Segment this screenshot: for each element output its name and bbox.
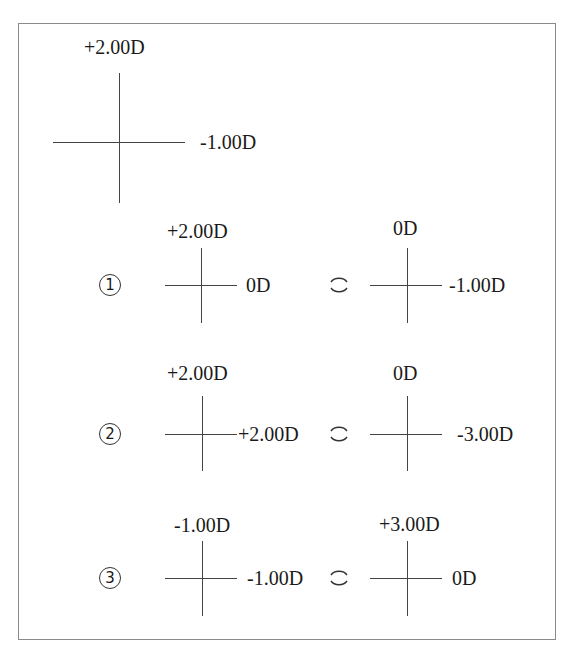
option-1-left-horizontal-meridian [165,285,237,286]
option-3-left-vertical-power: -1.00D [174,515,230,535]
main-horizontal-power-label: -1.00D [200,132,256,152]
main-vertical-power-label: +2.00D [84,37,145,57]
main-vertical-meridian [119,73,120,203]
option-2-right-vertical-power: 0D [393,363,417,383]
option-marker-3: 3 [99,567,121,589]
combine-symbol-icon [329,568,349,588]
option-3-right-horizontal-meridian [370,578,442,579]
main-horizontal-meridian [53,142,185,143]
option-1-right-horizontal-power: -1.00D [449,275,505,295]
option-1-left-horizontal-power: 0D [246,275,270,295]
figure-frame [18,23,556,640]
option-2-right-horizontal-power: -3.00D [457,424,513,444]
option-2-left-horizontal-meridian [165,434,237,435]
option-1-right-horizontal-meridian [370,285,442,286]
option-marker-1: 1 [99,274,121,296]
option-3-left-horizontal-power: -1.00D [247,568,303,588]
combine-symbol-icon [329,424,349,444]
option-3-left-horizontal-meridian [165,578,237,579]
option-marker-2: 2 [99,423,121,445]
option-3-right-horizontal-power: 0D [452,568,476,588]
option-1-right-vertical-power: 0D [393,218,417,238]
option-2-left-horizontal-power: +2.00D [238,424,299,444]
option-2-left-vertical-power: +2.00D [167,363,228,383]
option-3-right-vertical-power: +3.00D [379,514,440,534]
combine-symbol-icon [329,275,349,295]
option-2-right-horizontal-meridian [370,434,442,435]
option-1-left-vertical-power: +2.00D [167,221,228,241]
